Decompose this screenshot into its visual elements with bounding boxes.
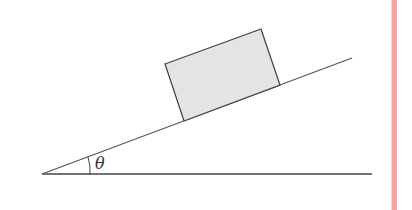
inclined-plane-diagram: θ [0,0,412,210]
angle-label: θ [95,154,105,173]
angle-arc [88,157,90,175]
block [165,29,280,121]
